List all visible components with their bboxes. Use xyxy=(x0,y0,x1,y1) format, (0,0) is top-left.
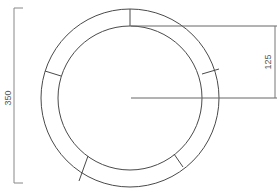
segment-divider-upper-right xyxy=(202,69,219,74)
diameter-dimension-label: 350 xyxy=(3,90,13,105)
segment-divider-lower-right xyxy=(174,154,183,167)
segment-divider-upper-left xyxy=(45,71,61,76)
radius-dimension-label: 125 xyxy=(263,54,273,69)
ring-drawing: 125 350 xyxy=(0,0,280,194)
segment-divider-lower-left xyxy=(79,156,88,181)
